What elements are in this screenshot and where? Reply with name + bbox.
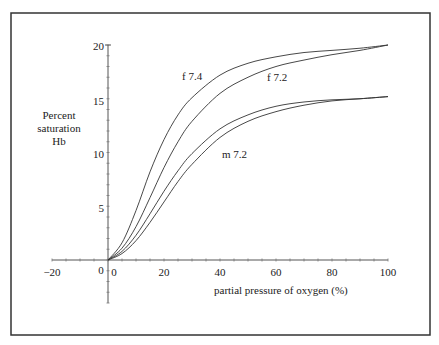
y-tick-label: 10 (93, 148, 105, 160)
y-tick-label: 5 (99, 202, 105, 214)
curve-label-m72: m 7.2 (222, 148, 247, 160)
x-tick-label: 60 (271, 266, 283, 278)
y-axis-label-line1: Percent (43, 109, 76, 121)
x-tick-label: −20 (43, 266, 61, 278)
curve-label-f72: f 7.2 (267, 71, 287, 83)
x-tick-label: 80 (327, 266, 339, 278)
y-tick-label: 15 (93, 95, 105, 107)
x-axis-label: partial pressure of oxygen (%) (214, 284, 348, 297)
x-tick-label: 40 (215, 266, 227, 278)
y-axis-label-line2: saturation (37, 122, 81, 134)
x-tick-label: 20 (159, 266, 171, 278)
y-tick-label: 20 (93, 40, 105, 52)
y-axis-label-line3: Hb (52, 135, 66, 147)
curve-label-f74: f 7.4 (182, 70, 203, 82)
oxygen-dissociation-chart: −20 0 0 20 40 60 80 100 5 10 15 20 Perce… (0, 0, 439, 345)
x-tick-label: 0 (111, 266, 117, 278)
x-tick-label: 100 (380, 266, 397, 278)
origin-label: 0 (98, 264, 104, 276)
